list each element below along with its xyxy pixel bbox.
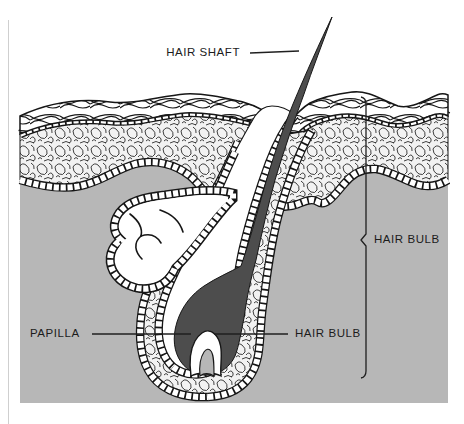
hair-shaft-label: HAIR SHAFT	[128, 46, 240, 59]
papilla-label: PAPILLA	[30, 327, 80, 340]
hair-shaft-leader-line	[250, 51, 299, 53]
figure: HAIR SHAFT PAPILLA HAIR BULB HAIR BULB	[0, 0, 464, 424]
hair-bulb-bracket-label: HAIR BULB	[374, 233, 440, 246]
skin-cross-section-diagram	[0, 0, 464, 424]
hair-bulb-callout-label: HAIR BULB	[295, 327, 361, 340]
